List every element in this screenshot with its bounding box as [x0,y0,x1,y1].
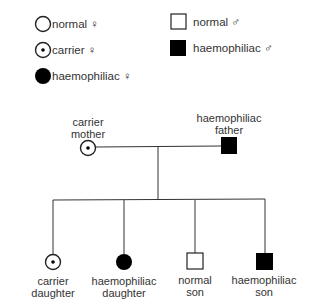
legend-haemophiliac-male-icon [170,40,186,56]
normal-son-icon [187,253,203,269]
haemophiliac-daughter-icon [116,254,132,270]
father-label-line1: haemophiliac [184,112,274,124]
father-haemophiliac-icon [221,137,237,154]
mother-label-line1: carrier [43,116,133,128]
legend-normal-male-label: normal ♂ [193,15,240,29]
haemophiliac-son-icon [256,253,273,270]
couple-line [96,146,221,147]
legend-carrier-female-label: carrier ♀ [52,43,96,57]
mother-label: carrier mother [43,116,133,140]
legend-normal-female-icon [36,17,51,32]
legend-haemophiliac-female-label: haemophiliac ♀ [52,69,132,83]
legend-normal-female-label: normal ♀ [52,17,99,31]
child4-label-line1: haemophiliac [219,274,298,286]
mother-carrier-dot-icon [86,146,90,150]
legend-haemophiliac-male-label: haemophiliac ♂ [193,41,273,55]
legend-carrier-dot-icon [41,48,45,52]
legend-normal-male-icon [171,14,186,29]
child-label-haemophiliac-son: haemophiliac son [219,274,298,298]
mother-label-line2: mother [43,128,133,140]
child4-label-line2: son [219,286,298,298]
legend-haemophiliac-female-icon [35,68,51,84]
father-label: haemophiliac father [184,112,274,136]
sibship-line [53,199,265,200]
carrier-daughter-dot-icon [51,260,55,264]
father-label-line2: father [184,124,274,136]
